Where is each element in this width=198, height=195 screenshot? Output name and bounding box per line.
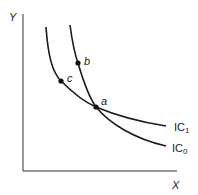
point-a-label: a — [101, 95, 107, 107]
point-c-label: c — [67, 72, 73, 84]
curve-ic1 — [46, 27, 166, 126]
y-axis-label: Y — [9, 11, 17, 23]
curve-ic0-label: IC0 — [172, 142, 188, 156]
x-axis-label: X — [171, 179, 180, 191]
curve-ic1-label: IC1 — [174, 121, 190, 135]
point-c-marker — [58, 78, 63, 83]
point-b-label: b — [84, 55, 90, 67]
indifference-curve-diagram: a b c IC1 IC0 Y X — [0, 0, 198, 195]
point-b-marker — [75, 60, 80, 65]
curve-ic0 — [70, 25, 166, 146]
point-a-marker — [93, 104, 98, 109]
diagram-svg: a b c IC1 IC0 Y X — [0, 0, 198, 195]
